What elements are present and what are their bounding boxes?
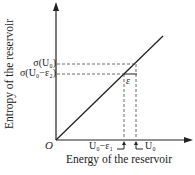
y-axis-arrow-icon [53, 2, 59, 11]
epsilon-label: ε [126, 75, 130, 86]
y-tick-sigma-u0-eps2: σ(U₀−ε₂) [20, 67, 56, 78]
x-axis-arrow-icon [184, 137, 193, 143]
u0-arrow-icon [134, 141, 138, 145]
u0-eps1-arrow-icon [122, 141, 126, 145]
origin-label: O [45, 139, 53, 151]
x-tick-u0: U₀ [145, 140, 156, 151]
x-axis-label: Energy of the reservoir [66, 153, 172, 165]
x-tick-u0-eps1: U₀−ε₁ [89, 140, 113, 151]
y-axis-label: Entropy of the reservoir [3, 14, 15, 134]
entropy-energy-diagram: Entropy of the reservoir Energy of the r… [0, 0, 195, 175]
entropy-line [56, 36, 163, 140]
